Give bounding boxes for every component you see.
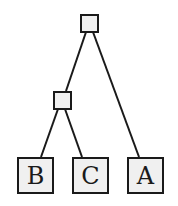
- leaf-node-a: [128, 158, 163, 193]
- edge-root-mid: [66, 32, 86, 91]
- edge-mid-C: [65, 109, 82, 157]
- root-node: [81, 15, 98, 32]
- mid-node: [54, 92, 71, 109]
- leaf-node-c: [73, 158, 108, 193]
- edge-mid-B: [41, 109, 58, 157]
- tree-svg: [0, 0, 178, 206]
- leaf-node-b: [18, 158, 53, 193]
- edge-root-A: [93, 32, 139, 157]
- tree-diagram: B C A: [0, 0, 178, 206]
